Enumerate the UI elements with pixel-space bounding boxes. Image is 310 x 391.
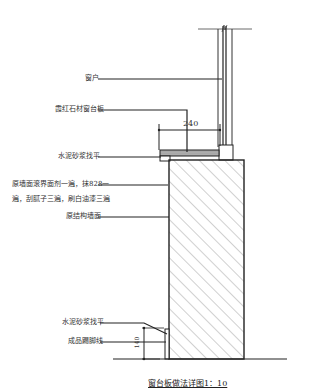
label-mortar-top: 水泥砂浆找平 [58, 152, 100, 161]
label-mortar-bottom: 水泥砂浆找平 [62, 318, 104, 327]
dim-baseboard-height: 140 [133, 337, 140, 348]
label-stone-sill: 霞红石材窗台板 [55, 105, 104, 114]
leader-stone-sill [98, 110, 187, 152]
drawing-title: 窗台板做法详图1：10 [148, 377, 227, 388]
dim-sill-width: 240 [183, 119, 198, 128]
label-structure-wall: 原结构墙面 [66, 212, 101, 221]
label-wall-finish-1: 原墙面滚界面剂一遍，抹828一 [12, 180, 109, 189]
leader-mortar-bottom [100, 323, 167, 334]
structural-wall [169, 160, 244, 359]
label-baseboard: 成品踢脚线 [68, 337, 103, 346]
stone-sill [160, 150, 219, 156]
window-sill-block [219, 145, 233, 160]
label-wall-finish-2: 遍，刮腻子三遍，刷白油漆三遍 [12, 195, 110, 204]
label-window: 窗户 [85, 74, 99, 83]
